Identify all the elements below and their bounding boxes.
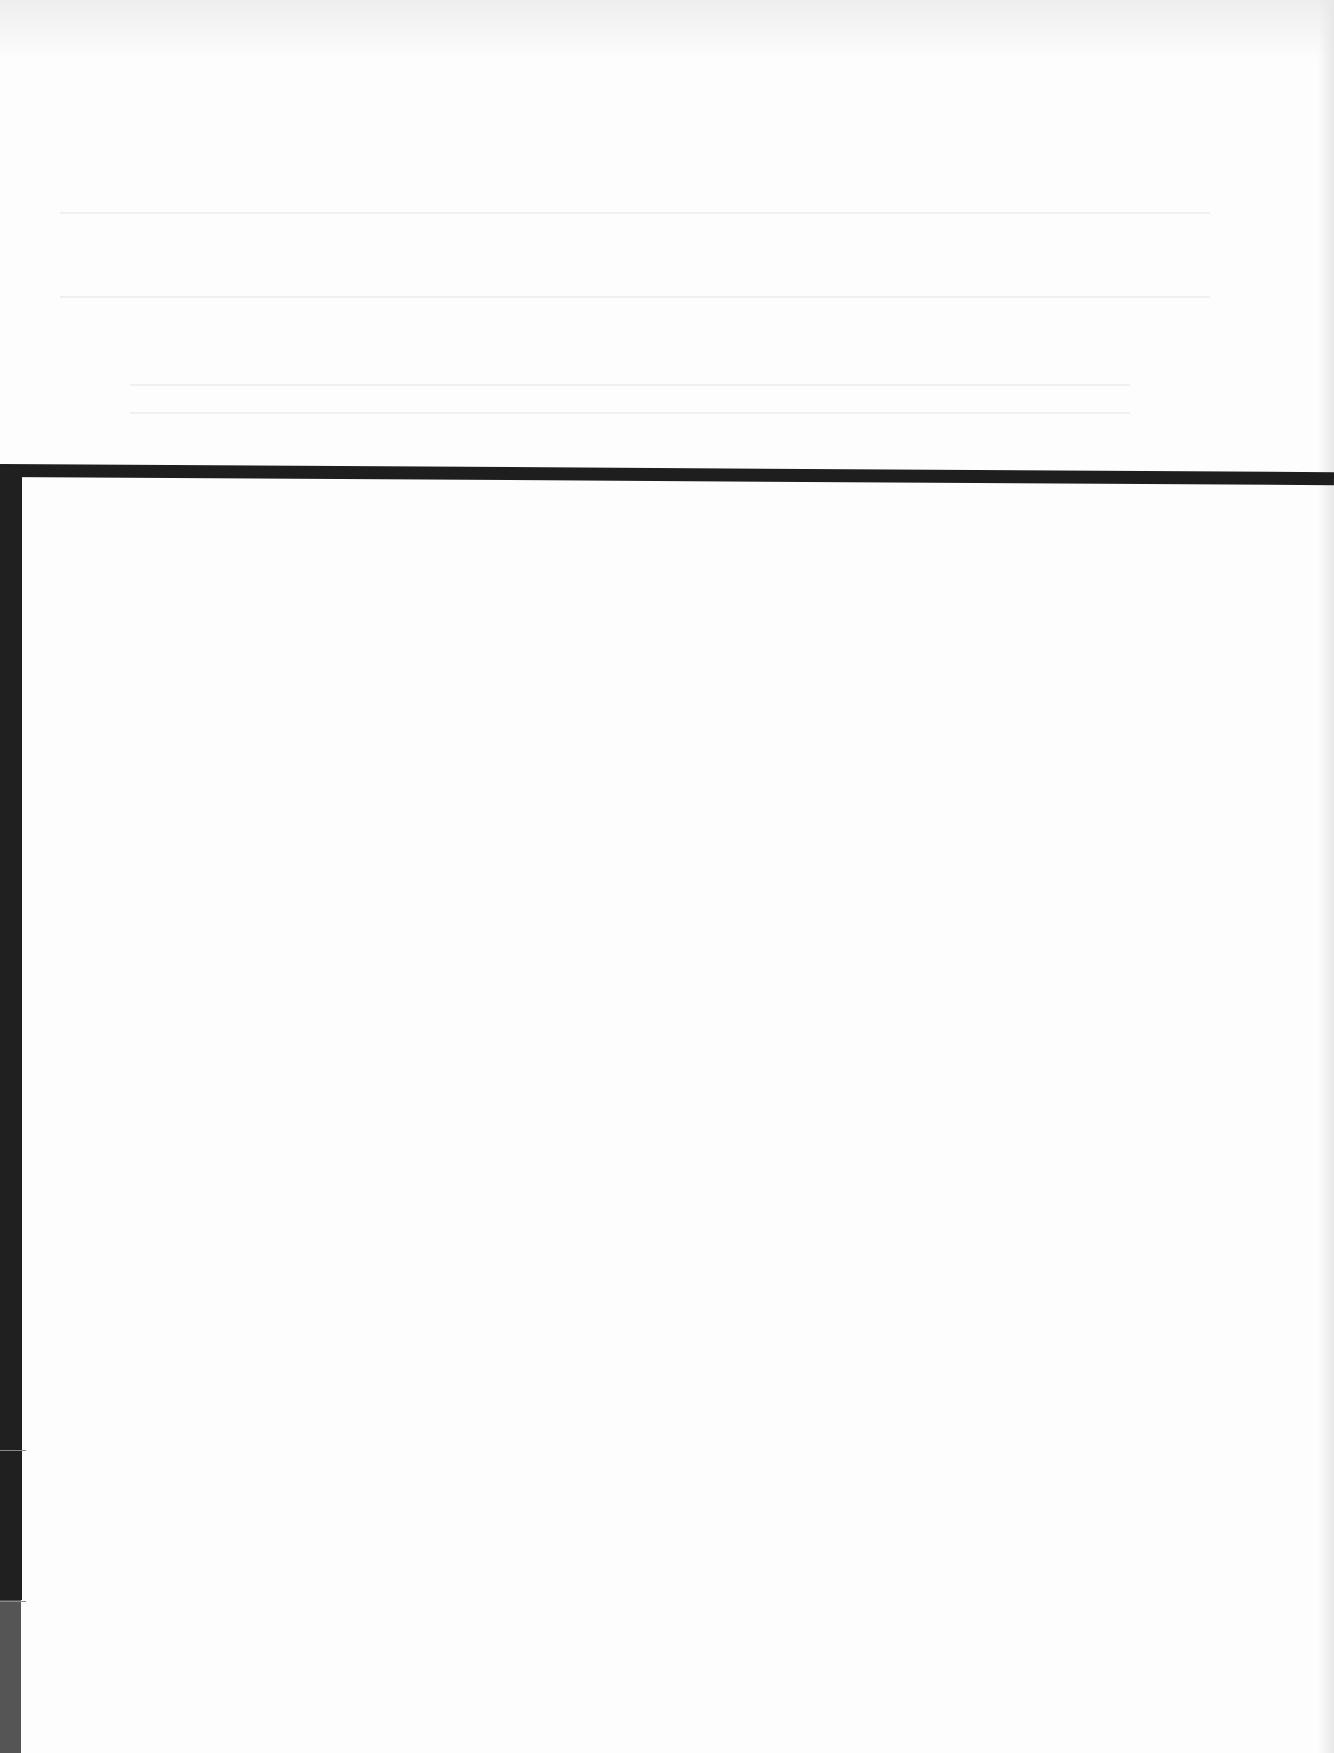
left-border-bar-grey (0, 1600, 21, 1753)
scan-shadow-right (1318, 0, 1334, 1753)
bleed-through-line (130, 412, 1130, 414)
scan-shadow-top (0, 0, 1334, 60)
registration-tick (0, 1450, 26, 1451)
horizontal-rule (0, 464, 1334, 485)
bleed-through-line (60, 212, 1210, 214)
left-border-bar (0, 468, 22, 1600)
bleed-through-line (60, 296, 1210, 298)
bleed-through-line (130, 384, 1130, 386)
registration-tick (0, 1601, 26, 1602)
